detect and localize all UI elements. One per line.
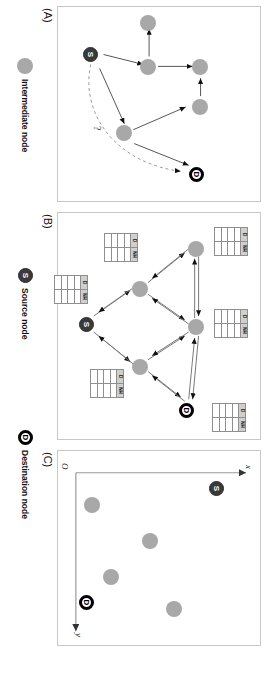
node-intermediate-c3[interactable]: [103, 569, 119, 585]
legend: Intermediate node S Source node D Destin…: [3, 0, 43, 673]
routing-table-cell: [118, 234, 125, 248]
routing-table-cell: [228, 242, 235, 256]
routing-table-row: [222, 228, 229, 256]
node-intermediate-a1[interactable]: [140, 15, 156, 31]
node-intermediate-a2[interactable]: [192, 59, 208, 75]
routing-table-cell: [215, 228, 222, 242]
circle-destination-icon: D: [18, 430, 33, 445]
panel-c-label: (C): [42, 452, 54, 467]
node-source-c[interactable]: S: [209, 481, 224, 496]
routing-table-cell: [98, 370, 105, 384]
routing-table-cell: [68, 276, 75, 290]
node-source-b[interactable]: S: [79, 317, 94, 332]
node-intermediate-a4[interactable]: [116, 125, 132, 141]
x-axis-label: x: [244, 465, 254, 469]
routing-table-cell: [222, 324, 229, 338]
routing-table-header-d: D: [241, 310, 248, 324]
node-intermediate-a3[interactable]: [140, 59, 156, 75]
routing-table-cell: [125, 234, 132, 248]
node-intermediate-b2[interactable]: [132, 281, 148, 297]
routing-table-row: [215, 310, 222, 338]
node-intermediate-b4[interactable]: [188, 319, 204, 335]
routing-table-cell: [62, 290, 69, 304]
routing-table-cell: [75, 276, 82, 290]
node-intermediate-c4[interactable]: [166, 601, 182, 617]
node-intermediate-b3[interactable]: [132, 359, 148, 375]
panel-b-label: (B): [42, 214, 54, 229]
routing-table-cell: [235, 310, 242, 324]
routing-table-row: [104, 370, 111, 398]
routing-table-cell: [235, 324, 242, 338]
routing-table-cell: [112, 234, 119, 248]
routing-table-cell: [215, 324, 222, 338]
routing-table-header-row: DNH: [241, 310, 248, 338]
node-intermediate-c2[interactable]: [142, 533, 158, 549]
routing-table-cell: [105, 248, 112, 262]
routing-table-row: [235, 228, 242, 256]
routing-table-row: [222, 310, 229, 338]
legend-label-source: Source node: [21, 288, 31, 339]
routing-table-b4: DNH: [215, 309, 249, 338]
routing-table-cell: [125, 248, 132, 262]
routing-table-cell: [233, 418, 240, 432]
routing-table-row: [62, 276, 69, 304]
node-intermediate-c1[interactable]: [84, 497, 100, 513]
node-intermediate-a5[interactable]: [192, 99, 208, 115]
routing-table-row: [111, 370, 118, 398]
circle-gray-icon: [17, 58, 33, 74]
routing-table-cell: [98, 384, 105, 398]
routing-table-cell: [104, 384, 111, 398]
routing-table-cell: [228, 228, 235, 242]
routing-table-header-d: D: [81, 276, 88, 290]
routing-table-cell: [213, 404, 220, 418]
routing-table-b1: DNH: [215, 227, 249, 256]
legend-item-destination: D Destination node: [18, 430, 33, 519]
routing-table-header-d: D: [239, 404, 246, 418]
routing-table-row: [118, 234, 125, 262]
routing-table-header-nh: NH: [117, 384, 124, 398]
routing-table-header-row: DNH: [117, 370, 124, 398]
node-destination-c[interactable]: D: [79, 595, 94, 610]
routing-table-row: [235, 310, 242, 338]
routing-table-cell: [215, 242, 222, 256]
routing-table-cell: [91, 370, 98, 384]
node-intermediate-b1[interactable]: [188, 241, 204, 257]
routing-table-bd: DNH: [213, 403, 247, 432]
routing-table-header-row: DNH: [239, 404, 246, 432]
panel-c-axes: [58, 451, 260, 645]
routing-table-cell: [62, 276, 69, 290]
routing-table-row: [75, 276, 82, 304]
panel-b: S D DNH DNH DNH DNH DNH DNH: [57, 212, 261, 440]
node-destination-b[interactable]: D: [179, 403, 194, 418]
circle-source-icon: S: [18, 268, 33, 283]
routing-table-cell: [233, 404, 240, 418]
routing-table-row: [228, 310, 235, 338]
origin-label: O: [60, 463, 70, 470]
routing-table-cell: [55, 290, 62, 304]
routing-table-cell: [222, 242, 229, 256]
routing-table-row: [233, 404, 240, 432]
routing-table-cell: [220, 404, 227, 418]
routing-table-header-nh: NH: [241, 242, 248, 256]
routing-table-bs: DNH: [55, 275, 89, 304]
routing-table-b3: DNH: [91, 369, 125, 398]
routing-table-row: [215, 228, 222, 256]
routing-table-header-nh: NH: [241, 324, 248, 338]
routing-table-cell: [105, 234, 112, 248]
routing-table-header-nh: NH: [81, 290, 88, 304]
routing-table-cell: [75, 290, 82, 304]
routing-table-header-row: DNH: [241, 228, 248, 256]
legend-label-intermediate: Intermediate node: [20, 79, 30, 152]
routing-table-row: [220, 404, 227, 432]
routing-table-header-nh: NH: [131, 248, 138, 262]
routing-table-cell: [91, 384, 98, 398]
routing-table-header-d: D: [131, 234, 138, 248]
routing-table-cell: [228, 324, 235, 338]
figure-canvas: S D ? (A): [0, 0, 265, 673]
routing-table-header-row: DNH: [131, 234, 138, 262]
node-destination-a[interactable]: D: [189, 167, 204, 182]
node-source-a[interactable]: S: [83, 47, 98, 62]
legend-label-destination: Destination node: [21, 450, 31, 519]
unknown-route-annotation: ?: [92, 126, 103, 130]
routing-table-row: [68, 276, 75, 304]
